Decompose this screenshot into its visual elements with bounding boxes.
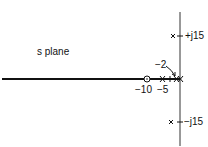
s-plane-label: s plane: [37, 47, 69, 57]
pole-marker-minus-j15: [169, 120, 173, 124]
pole-5-label: −5: [157, 85, 168, 95]
zero-label: −10: [135, 85, 152, 95]
pole-marker-plus-j15: [171, 34, 175, 38]
pole-2-label: −2: [155, 60, 166, 70]
diagram-canvas: [0, 0, 208, 147]
minus-j15-label: −j15: [184, 117, 203, 127]
plus-j15-label: +j15: [185, 31, 204, 41]
s-plane-diagram: s plane +j15 −j15 −10 −5 −2: [0, 0, 208, 147]
